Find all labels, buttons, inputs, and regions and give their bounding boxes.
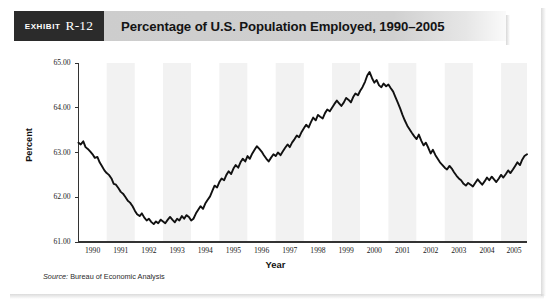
y-axis-title: Percent — [24, 110, 34, 180]
year-band — [473, 63, 501, 242]
source-text: Bureau of Economic Analysis — [68, 272, 165, 281]
y-axis-tick-label: 62.00 — [37, 192, 71, 201]
year-band — [304, 63, 332, 242]
year-band — [219, 63, 247, 242]
y-axis-tick-label: 64.00 — [37, 103, 71, 112]
year-band — [501, 63, 527, 242]
chart-plot-area: 61.0062.0063.0064.0065.00 19901991199219… — [0, 0, 551, 308]
year-bands — [79, 63, 528, 242]
y-axis-tick-label: 63.00 — [37, 148, 71, 157]
y-axis-tick-label: 65.00 — [37, 58, 71, 67]
year-band — [332, 63, 360, 242]
source-lead: Source: — [43, 272, 68, 281]
x-axis-tick-label: 2005 — [497, 246, 531, 255]
year-band — [276, 63, 304, 242]
year-band — [445, 63, 473, 242]
year-band — [360, 63, 388, 242]
exhibit-figure: Exhibit R-12 Percentage of U.S. Populati… — [0, 0, 551, 308]
year-band — [107, 63, 135, 242]
y-axis-tick-label: 61.00 — [37, 237, 71, 246]
x-axis-title: Year — [0, 259, 551, 270]
year-band — [79, 63, 107, 242]
source-note: Source: Bureau of Economic Analysis — [43, 272, 165, 281]
